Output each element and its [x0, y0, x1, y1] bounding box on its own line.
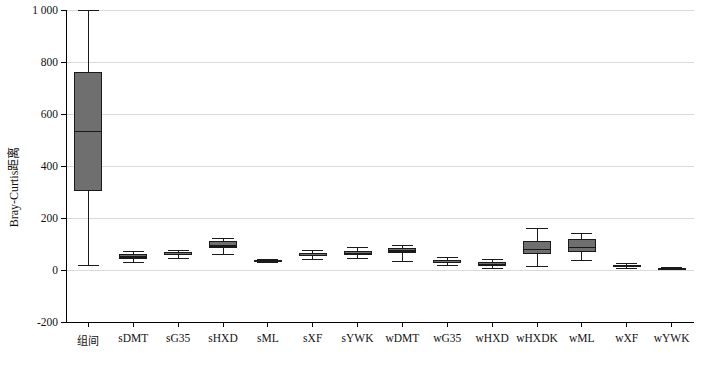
x-axis-tick-label: sDMT: [118, 332, 148, 344]
gridline: [66, 10, 694, 11]
y-axis-tick-label: 200: [41, 212, 58, 224]
box-plot-box: [523, 241, 551, 254]
median-line: [254, 261, 282, 263]
whisker-cap-upper: [526, 228, 547, 229]
gridline: [66, 166, 694, 167]
x-axis-tick: [88, 322, 89, 327]
x-axis: [66, 322, 694, 323]
x-axis-tick-label: sML: [257, 332, 279, 344]
x-axis-tick-label: sYWK: [342, 332, 374, 344]
y-axis-tick-label: 600: [41, 108, 58, 120]
y-axis: [66, 10, 67, 322]
whisker-cap-upper: [392, 245, 413, 246]
whisker-cap-lower: [571, 260, 592, 261]
whisker-cap-lower: [168, 258, 189, 259]
whisker-cap-lower: [392, 261, 413, 262]
x-axis-tick: [671, 322, 672, 327]
x-axis-tick-label: 组间: [77, 332, 99, 348]
whisker-cap-lower: [482, 268, 503, 269]
x-axis-tick-label: wG35: [433, 332, 461, 344]
median-line: [658, 268, 686, 270]
median-line: [119, 256, 147, 258]
x-axis-tick-label: sG35: [166, 332, 190, 344]
median-line: [74, 131, 102, 133]
whisker-cap-lower: [347, 258, 368, 259]
gridline: [66, 114, 694, 115]
gridline: [66, 62, 694, 63]
y-axis-tick-label: 0: [52, 264, 58, 276]
x-axis-tick-label: wML: [569, 332, 595, 344]
x-axis-tick: [581, 322, 582, 327]
x-axis-tick-label: wDMT: [385, 332, 419, 344]
x-axis-tick: [626, 322, 627, 327]
median-line: [523, 249, 551, 251]
gridline: [66, 218, 694, 219]
median-line: [388, 250, 416, 252]
median-line: [209, 245, 237, 247]
median-line: [478, 264, 506, 266]
whisker-cap-upper: [571, 233, 592, 234]
x-axis-tick-label: sXF: [303, 332, 322, 344]
y-axis-tick-label: 400: [41, 160, 58, 172]
whisker-cap-lower: [616, 268, 637, 269]
x-axis-tick: [223, 322, 224, 327]
median-line: [568, 247, 596, 249]
gridline: [66, 270, 694, 271]
x-axis-tick: [133, 322, 134, 327]
x-axis-tick: [492, 322, 493, 327]
x-axis-tick-label: wHXDK: [516, 332, 558, 344]
whisker-cap-upper: [482, 259, 503, 260]
y-axis-tick-label: -200: [37, 316, 58, 328]
whisker-cap-upper: [302, 250, 323, 251]
x-axis-tick: [402, 322, 403, 327]
x-axis-tick: [447, 322, 448, 327]
x-axis-tick-label: wHXD: [476, 332, 509, 344]
x-axis-tick: [357, 322, 358, 327]
x-axis-tick-label: wXF: [615, 332, 638, 344]
x-axis-tick: [537, 322, 538, 327]
whisker-cap-upper: [437, 257, 458, 258]
median-line: [433, 262, 461, 264]
x-axis-tick: [312, 322, 313, 327]
median-line: [613, 266, 641, 268]
whisker-cap-lower: [437, 265, 458, 266]
x-axis-tick: [178, 322, 179, 327]
whisker-cap-lower: [78, 265, 99, 266]
median-line: [299, 255, 327, 257]
chart-container: Bray-Curtis距离 -20002004006008001 000组间sD…: [0, 0, 710, 373]
whisker-cap-upper: [212, 238, 233, 239]
plot-area: -20002004006008001 000组间sDMTsG35sHXDsMLs…: [66, 10, 694, 322]
y-axis-tick-label: 800: [41, 56, 58, 68]
y-axis-label: Bray-Curtis距离: [2, 0, 24, 373]
whisker-cap-lower: [526, 266, 547, 267]
x-axis-tick: [267, 322, 268, 327]
whisker-cap-lower: [212, 254, 233, 255]
whisker-cap-lower: [123, 262, 144, 263]
median-line: [344, 253, 372, 255]
whisker-cap-lower: [302, 259, 323, 260]
whisker-cap-upper: [123, 251, 144, 252]
whisker-cap-upper: [168, 250, 189, 251]
median-line: [164, 254, 192, 256]
whisker-cap-upper: [347, 247, 368, 248]
x-axis-tick-label: sHXD: [208, 332, 237, 344]
x-axis-tick-label: wYWK: [654, 332, 690, 344]
y-axis-tick-label: 1 000: [32, 4, 58, 16]
whisker-cap-upper: [78, 10, 99, 11]
